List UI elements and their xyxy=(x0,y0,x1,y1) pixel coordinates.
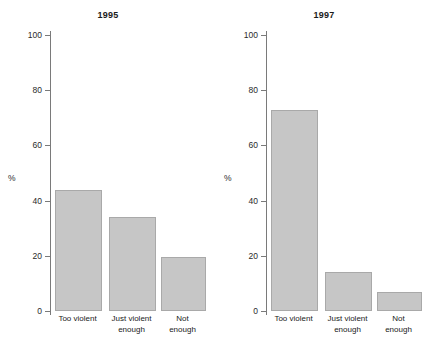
y-tick-label-80-right: 80 xyxy=(249,85,258,95)
chart-title-1995: 1995 xyxy=(0,10,216,20)
y-tick-label-40-right: 40 xyxy=(249,196,258,206)
y-tick-mark-60-left xyxy=(45,145,50,146)
y-tick-label-0-right: 0 xyxy=(253,306,258,316)
bar-too-violent-1997[interactable] xyxy=(271,110,318,311)
y-tick-label-60-right: 60 xyxy=(249,140,258,150)
y-tick-mark-80-right xyxy=(261,90,266,91)
bar-just-violent-enough-1995[interactable] xyxy=(109,217,156,311)
y-tick-mark-0-left xyxy=(45,311,50,312)
bar-just-violent-enough-1997[interactable] xyxy=(325,272,372,311)
y-axis-label-right: % xyxy=(224,173,232,183)
chart-panel-1997: 1997 % 0 20 40 60 80 xyxy=(216,0,432,353)
plot-area-1997: 0 20 40 60 80 100 xyxy=(266,35,426,311)
y-axis-label-left: % xyxy=(8,173,16,183)
bar-group-1997 xyxy=(267,35,426,311)
y-tick-label-20-left: 20 xyxy=(33,251,42,261)
chart-title-1997: 1997 xyxy=(216,10,432,20)
y-tick-label-100-left: 100 xyxy=(28,30,42,40)
plot-area-1995: 0 20 40 60 80 100 xyxy=(50,35,210,311)
y-tick-mark-100-right xyxy=(261,35,266,36)
y-tick-mark-80-left xyxy=(45,90,50,91)
bar-not-enough-1997[interactable] xyxy=(377,292,422,311)
bar-group-1995 xyxy=(51,35,210,311)
x-tick-label-not-enough-1995: Not enough xyxy=(150,314,215,335)
y-tick-label-20-right: 20 xyxy=(249,251,258,261)
y-tick-label-60-left: 60 xyxy=(33,140,42,150)
y-tick-mark-100-left xyxy=(45,35,50,36)
y-tick-label-0-left: 0 xyxy=(37,306,42,316)
y-tick-label-40-left: 40 xyxy=(33,196,42,206)
bar-not-enough-1995[interactable] xyxy=(161,257,206,311)
y-tick-label-100-right: 100 xyxy=(244,30,258,40)
y-tick-mark-0-right xyxy=(261,311,266,312)
y-tick-mark-40-left xyxy=(45,201,50,202)
chart-panel-1995: 1995 % 0 20 40 60 80 xyxy=(0,0,216,353)
y-tick-mark-60-right xyxy=(261,145,266,146)
bar-too-violent-1995[interactable] xyxy=(55,190,102,311)
figure: 1995 % 0 20 40 60 80 xyxy=(0,0,432,353)
y-tick-mark-40-right xyxy=(261,201,266,202)
y-tick-mark-20-right xyxy=(261,256,266,257)
y-tick-mark-20-left xyxy=(45,256,50,257)
x-tick-label-not-enough-1997: Not enough xyxy=(366,314,431,335)
y-tick-label-80-left: 80 xyxy=(33,85,42,95)
